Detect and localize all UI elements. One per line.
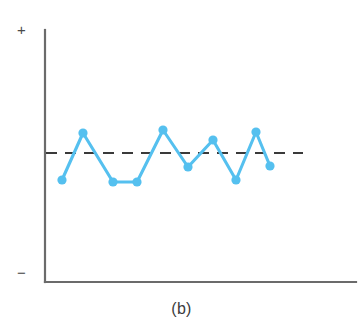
series-group	[57, 125, 274, 186]
data-point	[231, 175, 240, 184]
panel-caption: (b)	[0, 300, 363, 318]
axes-group	[45, 30, 356, 282]
data-point	[208, 135, 217, 144]
data-point	[57, 175, 66, 184]
data-point	[183, 162, 192, 171]
data-point	[78, 128, 87, 137]
series-line-residuals	[62, 130, 270, 182]
data-point	[108, 177, 117, 186]
data-point	[158, 125, 167, 134]
data-point	[132, 177, 141, 186]
y-axis-negative-label: −	[17, 265, 26, 280]
data-point	[265, 161, 274, 170]
figure-panel-b: + − (b)	[0, 0, 363, 336]
data-point	[251, 127, 260, 136]
y-axis-positive-label: +	[17, 22, 26, 37]
residual-plot-svg	[0, 0, 363, 300]
